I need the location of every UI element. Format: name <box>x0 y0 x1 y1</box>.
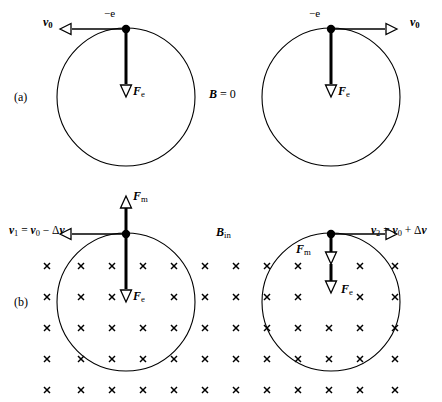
field-cross-icon <box>171 263 177 269</box>
field-cross-icon <box>357 325 363 331</box>
cross-row <box>44 356 398 362</box>
field-cross-icon <box>44 294 50 300</box>
velocity-equation-b-left: v1 = v0 − Δv <box>9 225 65 237</box>
panel-a-right-diagram <box>262 24 400 167</box>
force-symbol: F <box>133 189 141 203</box>
electron-dot <box>327 25 335 33</box>
field-cross-icon <box>140 356 146 362</box>
field-cross-icon <box>295 387 301 393</box>
field-cross-icon <box>171 387 177 393</box>
field-cross-icon <box>264 356 270 362</box>
field-cross-icon <box>202 263 208 269</box>
equals-sign: = <box>18 224 30 236</box>
force-electric-arrowhead <box>326 281 337 293</box>
field-cross-icon <box>44 387 50 393</box>
field-cross-icon <box>78 294 84 300</box>
field-cross-icon <box>140 263 146 269</box>
panel-b-left-diagram <box>57 196 195 371</box>
force-symbol: F <box>133 84 141 98</box>
physics-figure-electron-orbit: (a) (b) −e v0 Fe −e v0 Fe B = 0 Bin Fm F… <box>0 0 442 402</box>
velocity-subscript: 0 <box>415 20 419 30</box>
magnetic-field-label-a: B = 0 <box>209 88 236 100</box>
force-electric-label-b-right: Fe <box>341 283 353 295</box>
force-symbol: F <box>296 242 304 256</box>
force-electric-arrowhead <box>326 85 337 97</box>
field-cross-icon <box>140 325 146 331</box>
field-cross-icon <box>109 356 115 362</box>
field-cross-icon <box>233 263 239 269</box>
panel-a-left-diagram <box>57 24 195 167</box>
figure-canvas <box>0 0 442 402</box>
field-cross-icon <box>295 263 301 269</box>
field-cross-icon <box>78 356 84 362</box>
panel-a-tag: (a) <box>14 91 27 103</box>
field-cross-icon <box>202 325 208 331</box>
field-cross-icon <box>44 325 50 331</box>
force-subscript: e <box>141 294 145 304</box>
field-cross-icon <box>202 356 208 362</box>
force-subscript: e <box>346 89 350 99</box>
field-cross-icon <box>202 387 208 393</box>
field-cross-icon <box>357 263 363 269</box>
velocity-equation-b-right: v2 = v0 + Δv <box>371 225 427 237</box>
force-symbol: F <box>341 282 349 296</box>
field-cross-icon <box>264 263 270 269</box>
equals-sign: = <box>380 224 392 236</box>
electron-dot <box>122 230 130 238</box>
force-magnetic-arrowhead <box>121 196 132 208</box>
force-magnetic-arrowhead <box>326 252 337 264</box>
electron-dot <box>122 25 130 33</box>
field-cross-icon <box>392 263 398 269</box>
velocity-label-a-left: v0 <box>43 16 53 28</box>
plus-delta: + Δ <box>402 224 422 236</box>
cross-row <box>44 387 398 393</box>
force-electric-arrowhead <box>121 290 132 302</box>
velocity-label-a-right: v0 <box>410 16 420 28</box>
field-cross-icon <box>233 325 239 331</box>
field-symbol: B <box>209 87 217 101</box>
field-cross-icon <box>295 325 301 331</box>
velocity-arrowhead <box>386 24 397 35</box>
cross-row <box>44 325 398 331</box>
field-cross-icon <box>264 294 270 300</box>
field-cross-icon <box>233 294 239 300</box>
field-cross-icon <box>78 263 84 269</box>
field-cross-icon <box>326 325 332 331</box>
field-cross-icon <box>109 325 115 331</box>
field-cross-icon <box>357 294 363 300</box>
field-cross-icon <box>44 356 50 362</box>
field-cross-icon <box>392 356 398 362</box>
cross-row <box>44 263 398 269</box>
force-electric-arrowhead <box>121 85 132 97</box>
force-subscript: m <box>141 194 148 204</box>
field-cross-icon <box>326 387 332 393</box>
force-magnetic-label-b-right: Fm <box>296 243 311 255</box>
panel-b-tag: (b) <box>14 296 28 308</box>
field-cross-icon <box>109 387 115 393</box>
field-cross-icon <box>44 263 50 269</box>
field-cross-icon <box>78 325 84 331</box>
minus-delta: − Δ <box>40 224 60 236</box>
magnetic-field-label-b: Bin <box>216 226 231 238</box>
force-symbol: F <box>338 84 346 98</box>
force-subscript: m <box>304 247 311 257</box>
charge-label-a-left: −e <box>104 8 115 19</box>
field-cross-icon <box>392 294 398 300</box>
field-cross-icon <box>357 356 363 362</box>
force-subscript: e <box>141 89 145 99</box>
field-cross-icon <box>326 356 332 362</box>
force-magnetic-label-b-left: Fm <box>133 190 148 202</box>
panel-b-right-diagram <box>262 229 400 372</box>
velocity-arrowhead <box>60 24 71 35</box>
field-cross-icon <box>171 356 177 362</box>
field-cross-icon <box>233 356 239 362</box>
field-cross-icon <box>171 294 177 300</box>
field-cross-icon <box>109 294 115 300</box>
delta-v-symbol: v <box>59 224 64 236</box>
field-symbol: B <box>216 225 224 239</box>
field-cross-icon <box>171 325 177 331</box>
field-cross-icon <box>295 294 301 300</box>
charge-label-a-right: −e <box>309 8 320 19</box>
field-cross-icon <box>264 387 270 393</box>
field-cross-icon <box>202 294 208 300</box>
